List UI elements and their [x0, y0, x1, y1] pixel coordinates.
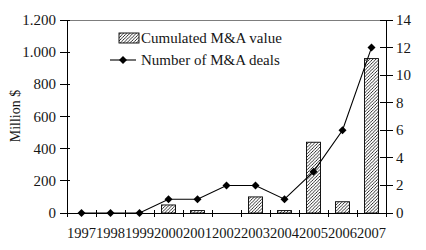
- left-axis-tick-label: 200: [34, 173, 57, 189]
- right-axis-tick-label: 10: [396, 67, 411, 83]
- deals-marker-diamond: [165, 195, 173, 203]
- bar-2003: [249, 197, 263, 213]
- legend-line-label: Number of M&A deals: [141, 52, 280, 68]
- x-axis-tick-label: 2003: [241, 225, 270, 241]
- left-axis-tick-label: 1.000: [22, 44, 56, 60]
- bar-2006: [336, 202, 350, 213]
- bar-2000: [162, 205, 176, 213]
- x-axis-tick-label: 1999: [125, 225, 154, 241]
- x-axis-tick-label: 2005: [299, 225, 328, 241]
- x-axis-tick-label: 2002: [212, 225, 241, 241]
- left-axis-tick-label: 1.200: [22, 12, 56, 28]
- legend-bar-label: Cumulated M&A value: [141, 30, 282, 46]
- deals-marker-diamond: [107, 209, 115, 217]
- ma-chart-figure: 02004006008001.0001.20002468101214199719…: [0, 0, 426, 250]
- x-axis-tick-label: 2006: [328, 225, 357, 241]
- left-axis-tick-label: 0: [49, 205, 57, 221]
- x-axis-tick-label: 2000: [154, 225, 183, 241]
- deals-marker-diamond: [194, 195, 202, 203]
- left-axis-title: Million $: [8, 90, 23, 143]
- left-axis-tick-label: 800: [34, 76, 57, 92]
- x-axis-tick-label: 2001: [183, 225, 212, 241]
- right-axis-tick-label: 8: [396, 95, 404, 111]
- deals-marker-diamond: [252, 181, 260, 189]
- right-axis-tick-label: 6: [396, 122, 404, 138]
- x-axis-tick-label: 2007: [357, 225, 386, 241]
- x-axis-tick-label: 1998: [96, 225, 125, 241]
- left-axis-tick-label: 400: [34, 141, 57, 157]
- x-axis-tick-label: 2004: [270, 225, 300, 241]
- right-axis-tick-label: 2: [396, 177, 404, 193]
- left-axis-tick-label: 600: [34, 109, 57, 125]
- right-axis-tick-label: 4: [396, 150, 404, 166]
- legend-diamond-icon: [119, 56, 127, 64]
- right-axis-tick-label: 0: [396, 205, 404, 221]
- ma-combo-chart: 02004006008001.0001.20002468101214199719…: [0, 0, 426, 250]
- deals-marker-diamond: [339, 126, 347, 134]
- right-axis-tick-label: 14: [396, 12, 412, 28]
- deals-marker-diamond: [368, 44, 376, 52]
- bar-2007: [365, 59, 379, 213]
- right-axis-tick-label: 12: [396, 40, 411, 56]
- legend-bar-swatch-icon: [119, 33, 139, 43]
- deals-marker-diamond: [223, 181, 231, 189]
- deals-marker-diamond: [78, 209, 86, 217]
- deals-marker-diamond: [136, 209, 144, 217]
- x-axis-tick-label: 1997: [67, 225, 96, 241]
- bar-2005: [307, 142, 321, 213]
